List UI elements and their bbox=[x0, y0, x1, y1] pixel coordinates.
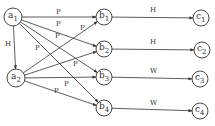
edge-arrow bbox=[112, 77, 192, 79]
node-a2: a2 bbox=[7, 69, 25, 87]
node-b2: b2 bbox=[96, 41, 112, 57]
edge-label: H bbox=[150, 6, 156, 14]
edge-label: W bbox=[150, 67, 158, 75]
edge-label: H bbox=[5, 40, 11, 48]
edge-label: P bbox=[64, 80, 69, 88]
edges-layer bbox=[13, 17, 194, 111]
edge-label: P bbox=[35, 44, 40, 52]
edge-arrow bbox=[25, 81, 97, 106]
edge-a2-b3 bbox=[25, 77, 96, 78]
edge-label: P bbox=[55, 32, 60, 40]
edge-arrow bbox=[112, 17, 193, 18]
edge-arrow bbox=[13, 26, 15, 69]
node-c4: c4 bbox=[192, 103, 208, 119]
directed-graph: HPPPPPPPPHHWW a1a2b1b2b3b4c1c2c3c4 bbox=[0, 0, 215, 126]
node-c3: c3 bbox=[192, 71, 208, 87]
edge-b2-c2 bbox=[112, 49, 194, 50]
edge-label: W bbox=[150, 99, 158, 107]
edge-b1-c1 bbox=[112, 17, 193, 18]
edge-arrow bbox=[25, 52, 97, 76]
edge-a1-a2 bbox=[13, 26, 15, 69]
node-a1: a1 bbox=[4, 8, 22, 26]
edge-label: P bbox=[80, 24, 85, 32]
edge-label: H bbox=[150, 38, 156, 46]
edge-b4-c4 bbox=[112, 108, 192, 111]
edge-label: P bbox=[56, 8, 61, 16]
edge-a2-b2 bbox=[25, 52, 97, 76]
node-b4: b4 bbox=[96, 100, 112, 116]
edge-a2-b4 bbox=[25, 81, 97, 106]
node-c2: c2 bbox=[194, 42, 210, 58]
edge-label: P bbox=[73, 60, 78, 68]
edge-arrow bbox=[25, 77, 96, 78]
node-b1: b1 bbox=[96, 9, 112, 25]
node-b3: b3 bbox=[96, 69, 112, 85]
node-c1: c1 bbox=[193, 10, 209, 26]
edge-arrow bbox=[112, 108, 192, 111]
edge-label: P bbox=[56, 20, 61, 28]
edge-arrow bbox=[112, 49, 194, 50]
edge-b3-c3 bbox=[112, 77, 192, 79]
edge-label: P bbox=[54, 87, 59, 95]
